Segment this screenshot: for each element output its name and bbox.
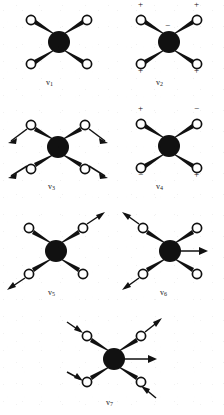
ligand-atom-bottom-right — [136, 377, 145, 386]
arrow-center-right — [180, 247, 208, 255]
arrow-bottom-left — [7, 278, 25, 290]
central-atom — [47, 136, 69, 158]
ligand-atom-top-right — [82, 15, 91, 24]
arrow-top-left — [8, 129, 27, 144]
ligand-atom-top-right — [192, 15, 201, 24]
ligand-atom-top-right — [80, 120, 89, 129]
arrow-top-right — [145, 318, 162, 332]
mode-label-v4: v4 — [156, 182, 163, 191]
ligand-atom-top-right — [78, 223, 87, 232]
figure-canvas: v1 + + − + + v2 — [0, 0, 224, 415]
ligand-atom-top-left — [138, 223, 147, 232]
ligand-atom-bottom-right — [192, 269, 201, 278]
ligand-atom-top-right — [192, 119, 201, 128]
arrow-top-left — [67, 322, 83, 333]
arrow-top-left — [122, 212, 139, 224]
central-atom — [158, 31, 180, 53]
mode-label-v6: v6 — [160, 288, 167, 297]
mode-label-v2: v2 — [156, 78, 163, 87]
ligand-atom-bottom-left — [82, 377, 91, 386]
ligand-atom-top-right — [192, 223, 201, 232]
mode-diagram-v1 — [14, 6, 104, 78]
ligand-atom-top-left — [24, 223, 33, 232]
central-atom — [48, 31, 70, 53]
ligand-atom-bottom-left — [138, 269, 147, 278]
central-atom — [103, 348, 125, 370]
sign-v2-center: − — [165, 21, 170, 29]
mode-label-v5: v5 — [48, 288, 55, 297]
mode-label-v1: v1 — [46, 78, 53, 87]
arrow-bottom-left — [8, 166, 27, 179]
molecule-svg-v5 — [4, 212, 108, 292]
ligand-atom-bottom-right — [80, 164, 89, 173]
ligand-atom-bottom-left — [26, 59, 35, 68]
ligand-atom-top-left — [82, 331, 91, 340]
molecule-svg-v6 — [118, 212, 222, 292]
sign-v2-bottom-right: + — [194, 66, 199, 74]
central-atom — [45, 240, 67, 262]
sign-v2-bottom-left: + — [138, 66, 143, 74]
arrow-bottom-left — [67, 372, 83, 381]
mode-label-v7: v7 — [106, 398, 113, 407]
central-atom — [159, 240, 181, 262]
ligand-atom-top-right — [136, 331, 145, 340]
ligand-atom-bottom-left — [24, 269, 33, 278]
molecule-svg-v1 — [14, 6, 104, 78]
arrow-bottom-right — [141, 386, 156, 398]
mode-diagram-v7 — [58, 315, 174, 401]
mode-diagram-v3 — [6, 110, 110, 184]
ligand-atom-top-left — [136, 119, 145, 128]
mode-diagram-v6 — [118, 212, 222, 292]
ligand-atom-top-left — [136, 15, 145, 24]
ligand-atom-top-left — [26, 120, 35, 129]
sign-v4-top-left: + — [138, 104, 143, 112]
arrow-center-right — [124, 355, 157, 363]
ligand-atom-bottom-left — [26, 164, 35, 173]
mode-label-v3: v3 — [48, 182, 55, 191]
sign-v2-top-left: + — [138, 0, 143, 8]
mode-diagram-v5 — [4, 212, 108, 292]
molecule-svg-v3 — [6, 110, 110, 184]
sign-v4-bottom-right: + — [194, 170, 199, 178]
molecule-svg-v7 — [58, 315, 174, 401]
arrow-top-right — [87, 212, 105, 224]
arrow-bottom-right — [89, 166, 108, 179]
sign-v2-top-right: + — [194, 0, 199, 8]
ligand-atom-bottom-right — [78, 269, 87, 278]
ligand-atom-bottom-right — [82, 59, 91, 68]
arrow-bottom-left — [122, 278, 139, 290]
ligand-atom-top-left — [26, 15, 35, 24]
arrow-top-right — [89, 129, 108, 144]
sign-v4-top-right: − — [194, 104, 199, 112]
sign-v4-bottom-left: − — [138, 170, 143, 178]
central-atom — [158, 135, 180, 157]
